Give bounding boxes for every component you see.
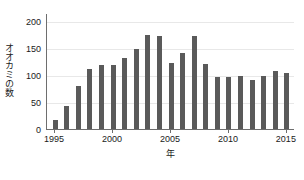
bar <box>53 120 58 129</box>
x-tick-mark <box>170 130 171 133</box>
x-tick-label: 2005 <box>160 135 180 144</box>
y-tick-label: 150 <box>26 45 41 54</box>
x-tick-label: 2000 <box>102 135 122 144</box>
bar <box>87 69 92 129</box>
bar <box>169 63 174 129</box>
bar <box>215 77 220 129</box>
bar <box>145 35 150 129</box>
x-axis-title: 年 <box>46 150 294 159</box>
plot-area <box>46 14 294 130</box>
bar <box>157 36 162 129</box>
bar <box>99 65 104 129</box>
y-tick-label: 100 <box>26 72 41 81</box>
x-tick-mark <box>228 130 229 133</box>
bar <box>134 49 139 129</box>
x-tick-mark <box>286 130 287 133</box>
bar <box>76 86 81 129</box>
x-tick-label: 1995 <box>44 135 64 144</box>
x-tick-mark <box>54 130 55 133</box>
x-tick-label: 2015 <box>276 135 296 144</box>
bar <box>261 76 266 129</box>
bar <box>192 36 197 129</box>
bar <box>64 106 69 129</box>
x-tick-mark <box>112 130 113 133</box>
bar <box>226 77 231 129</box>
bar-series <box>47 14 294 129</box>
x-tick-label: 2010 <box>218 135 238 144</box>
y-tick-label: 0 <box>36 126 41 135</box>
y-tick-label: 50 <box>31 99 41 108</box>
y-axis-tick-labels: 050100150200 <box>14 14 44 130</box>
bar <box>122 58 127 129</box>
bar <box>273 71 278 129</box>
bar <box>250 80 255 129</box>
bar <box>284 73 289 129</box>
wolf-population-bar-chart: オオカミの数 050100150200 19952000200520102015… <box>0 0 304 180</box>
bar <box>238 76 243 129</box>
bar <box>111 65 116 129</box>
bar <box>180 53 185 129</box>
bar <box>203 64 208 129</box>
y-tick-label: 200 <box>26 18 41 27</box>
